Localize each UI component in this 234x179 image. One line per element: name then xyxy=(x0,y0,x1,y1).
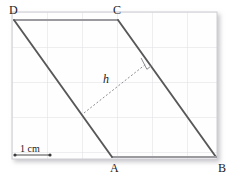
grid-background xyxy=(12,12,217,159)
scale-bar-label: 1 cm xyxy=(20,144,40,154)
scale-bar-left-dot-icon xyxy=(13,153,16,156)
scale-bar-right-dot-icon xyxy=(48,153,51,156)
vertex-label-B: B xyxy=(218,162,226,174)
grid-paper xyxy=(12,12,217,159)
vertex-label-C: C xyxy=(113,4,121,16)
geometry-figure: D C B A h 1 cm xyxy=(0,0,234,179)
vertex-label-D: D xyxy=(9,4,18,16)
height-label-h: h xyxy=(103,73,109,85)
vertex-label-A: A xyxy=(110,162,119,174)
